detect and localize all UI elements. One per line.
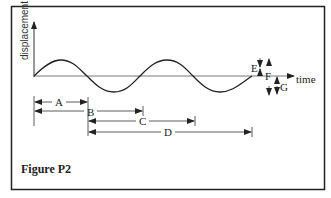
y-axis-label: displacement <box>19 1 30 60</box>
x-axis-label: time <box>296 73 316 85</box>
dimension-f: F <box>265 59 271 95</box>
dimension-c: C <box>89 115 194 127</box>
dimension-d: D <box>89 126 251 138</box>
dimension-a: A <box>35 96 87 108</box>
label-d: D <box>164 126 172 138</box>
figure-caption: Figure P2 <box>21 162 71 176</box>
dimension-g: G <box>277 77 288 94</box>
dimension-b: B <box>35 106 142 118</box>
label-f: F <box>265 70 271 82</box>
label-e: E <box>251 62 258 74</box>
label-a: A <box>55 96 63 108</box>
label-g: G <box>280 81 288 93</box>
label-c: C <box>139 115 146 127</box>
dimension-e: E <box>251 58 260 75</box>
label-b: B <box>87 106 94 118</box>
figure-p2: displacement time A B C D E <box>0 0 331 198</box>
